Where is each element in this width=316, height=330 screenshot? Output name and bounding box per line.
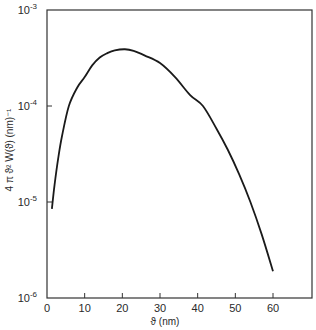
x-tick-label: 30 [154, 302, 166, 314]
plot-frame [47, 10, 312, 298]
y-tick-label: 10-3 [18, 2, 38, 16]
y-tick-label: 10-6 [18, 290, 38, 304]
x-tick-label: 60 [267, 302, 279, 314]
chart: 0102030405060 10-310-410-510-6 ϑ (nm) 4 … [0, 0, 316, 330]
plot-frame-rect [47, 10, 312, 298]
x-tick-label: 20 [116, 302, 128, 314]
x-tick-label: 10 [79, 302, 91, 314]
y-axis-label: 4 π ϑ² W(ϑ) (nm)⁻¹ [4, 108, 15, 191]
series-group [52, 49, 273, 271]
x-tick-label: 0 [44, 302, 50, 314]
x-tick-label: 50 [229, 302, 241, 314]
x-axis-label: ϑ (nm) [151, 316, 180, 327]
series-line-distribution [52, 49, 273, 271]
x-axis: 0102030405060 [44, 293, 279, 314]
x-tick-label: 40 [192, 302, 204, 314]
y-tick-label: 10-4 [18, 98, 38, 112]
y-tick-label: 10-5 [18, 194, 38, 208]
